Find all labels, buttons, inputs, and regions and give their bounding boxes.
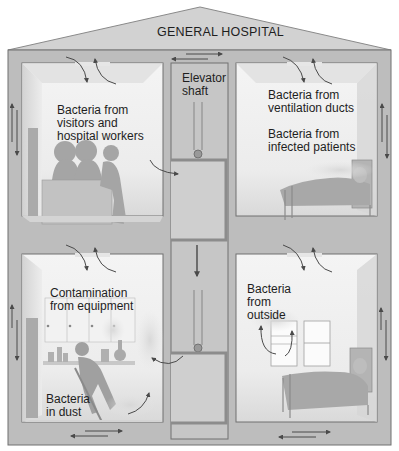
label-elevator-shaft: Elevator shaft	[182, 72, 226, 98]
diagram-canvas	[0, 0, 399, 451]
label-visitors-workers: Bacteria from visitors and hospital work…	[57, 104, 144, 143]
label-bacteria-in-dust: Bacteria in dust	[46, 393, 90, 419]
label-bacteria-outside: Bacteria from outside	[247, 283, 291, 322]
label-infected-patients: Bacteria from infected patients	[268, 128, 355, 154]
elevator-shaft	[171, 63, 228, 439]
label-equipment-contamination: Contamination from equipment	[50, 287, 133, 313]
room-upper-left	[22, 63, 163, 224]
label-ventilation-ducts: Bacteria from ventilation ducts	[268, 89, 354, 115]
room-lower-right	[236, 254, 377, 422]
hospital-diagram: GENERAL HOSPITAL Bacteria from visitors …	[0, 0, 399, 451]
hospital-title: GENERAL HOSPITAL	[157, 25, 284, 39]
room-lower-left	[22, 254, 164, 422]
